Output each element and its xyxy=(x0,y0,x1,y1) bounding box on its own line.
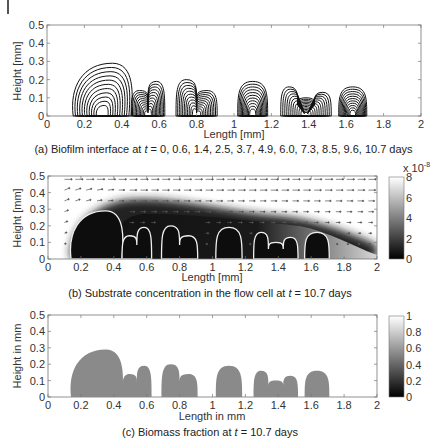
colorbar-tick-label: 0.8 xyxy=(406,326,421,338)
x-tick-label: 2 xyxy=(374,261,380,273)
x-tick-label: 1.6 xyxy=(304,399,319,411)
colorbar-tick-label: 1 xyxy=(406,310,412,322)
colorbar-tick-label: 0 xyxy=(406,391,412,403)
x-tick-label: 0.8 xyxy=(189,118,204,130)
y-tick-label: 0 xyxy=(39,253,45,265)
y-tick-label: 0.5 xyxy=(30,170,45,182)
x-tick-label: 1.6 xyxy=(304,261,319,273)
x-tick-label: 1.8 xyxy=(376,118,391,130)
x-tick-label: 1.2 xyxy=(264,118,279,130)
y-tick-label: 0.3 xyxy=(30,342,45,354)
x-tick-label: 1.8 xyxy=(336,399,351,411)
colorbar-ticks: 02468 xyxy=(406,171,412,265)
x-tick-label: 1.4 xyxy=(271,261,286,273)
x-axis-label: Length [mm] xyxy=(181,271,242,283)
colorbar-tick-label: 6 xyxy=(406,192,412,204)
panel-b: 00.20.40.60.811.21.41.61.82 00.10.20.30.… xyxy=(11,161,430,283)
panel-c: 00.20.40.60.811.21.41.61.82 00.10.20.30.… xyxy=(11,309,421,422)
panel-a: 00.20.40.60.811.21.41.61.82 00.10.20.30.… xyxy=(11,19,424,140)
y-tick-label: 0 xyxy=(39,391,45,403)
colorbar-ticks: 00.20.40.60.81 xyxy=(406,310,421,403)
y-axis-label: Height [mm] xyxy=(11,41,23,100)
x-tick-label: 0 xyxy=(44,118,50,130)
x-tick-label: 2 xyxy=(418,118,424,130)
y-tick-label: 0.5 xyxy=(30,309,45,321)
y-axis-label: Height [mm] xyxy=(11,188,23,247)
x-tick-label: 0.6 xyxy=(139,399,154,411)
x-tick-label: 0.6 xyxy=(139,261,154,273)
y-tick-label: 0.4 xyxy=(29,37,44,49)
y-tick-label: 0.1 xyxy=(29,92,44,104)
figure: 00.20.40.60.811.21.41.61.82 00.10.20.30.… xyxy=(0,0,447,446)
colorbar-tick-label: 0 xyxy=(406,253,412,265)
colorbar-tick-label: 0.6 xyxy=(406,342,421,354)
x-tick-label: 0 xyxy=(45,399,51,411)
y-tick-label: 0.2 xyxy=(30,220,45,232)
y-tick-label: 0.3 xyxy=(30,203,45,215)
biofilm-colony xyxy=(216,227,242,259)
caption-b: (b) Substrate concentration in the flow … xyxy=(0,287,420,299)
x-tick-label: 0.2 xyxy=(77,118,92,130)
colorbar-tick-label: 0.4 xyxy=(406,359,421,371)
y-tick-label: 0.5 xyxy=(29,19,44,31)
y-axis-label: Height in mm xyxy=(11,324,23,389)
colorbar-tick-label: 0.2 xyxy=(406,375,421,387)
x-tick-label: 1.6 xyxy=(339,118,354,130)
y-tick-label: 0.1 xyxy=(30,375,45,387)
x-tick-label: 1.4 xyxy=(271,399,286,411)
biofilm-colony xyxy=(305,232,330,259)
x-tick-label: 0.4 xyxy=(106,261,121,273)
colorbar-tick-label: 4 xyxy=(406,212,412,224)
y-tick-label: 0.4 xyxy=(30,187,45,199)
y-tick-label: 0.4 xyxy=(30,325,45,337)
x-tick-label: 1.4 xyxy=(301,118,316,130)
x-tick-label: 0.4 xyxy=(106,399,121,411)
y-tick-label: 0.3 xyxy=(29,55,44,67)
y-tick-label: 0.1 xyxy=(30,236,45,248)
colorbar-tick-label: 2 xyxy=(406,233,412,245)
y-tick-label: 0 xyxy=(38,110,44,122)
colorbar-multiplier: x 10-8 xyxy=(403,161,430,174)
x-axis-label: Length in mm xyxy=(179,410,246,422)
x-tick-label: 1.8 xyxy=(336,261,351,273)
y-tick-label: 0.2 xyxy=(30,358,45,370)
caption-a: (a) Biofilm interface at t = 0, 0.6, 1.4… xyxy=(0,143,447,155)
x-tick-label: 0.6 xyxy=(152,118,167,130)
colorbar xyxy=(389,177,404,259)
biomass-colony xyxy=(216,366,242,397)
biomass-colony xyxy=(305,371,330,397)
colorbar xyxy=(389,316,404,397)
caption-c: (c) Biomass fraction at t = 10.7 days xyxy=(0,426,420,438)
x-tick-label: 2 xyxy=(374,399,380,411)
x-tick-label: 0.4 xyxy=(114,118,129,130)
y-tick-label: 0.2 xyxy=(29,74,44,86)
x-tick-label: 0.2 xyxy=(73,399,88,411)
x-tick-label: 0 xyxy=(45,261,51,273)
x-tick-label: 0.2 xyxy=(73,261,88,273)
x-axis-label: Length [mm] xyxy=(203,128,264,140)
